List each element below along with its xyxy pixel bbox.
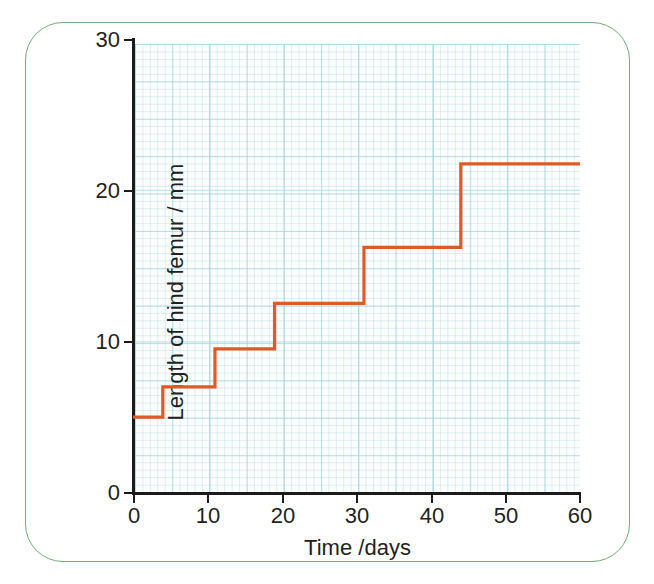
decade-gridlines xyxy=(135,44,580,493)
x-tick-10 xyxy=(207,494,209,503)
x-tick-60 xyxy=(579,494,581,503)
y-tick-label-10: 10 xyxy=(84,329,120,355)
x-tick-label-30: 30 xyxy=(345,503,369,529)
x-tick-label-60: 60 xyxy=(568,503,592,529)
y-tick-30 xyxy=(124,39,133,41)
y-axis-line xyxy=(132,38,135,495)
figure-root: 0 10 20 30 0 10 20 30 40 50 60 Length of… xyxy=(0,0,654,584)
plot-area xyxy=(135,44,580,493)
y-tick-label-30: 30 xyxy=(84,27,120,53)
x-tick-50 xyxy=(505,494,507,503)
x-tick-30 xyxy=(356,494,358,503)
y-tick-0 xyxy=(124,492,133,494)
x-axis-title: Time /days xyxy=(135,535,580,561)
x-tick-label-20: 20 xyxy=(271,503,295,529)
y-tick-10 xyxy=(124,341,133,343)
y-tick-label-0: 0 xyxy=(84,480,120,506)
x-tick-0 xyxy=(133,494,135,503)
x-tick-label-50: 50 xyxy=(494,503,518,529)
x-tick-20 xyxy=(282,494,284,503)
x-tick-40 xyxy=(431,494,433,503)
y-axis-title: Length of hind femur / mm xyxy=(163,164,189,421)
x-tick-label-0: 0 xyxy=(128,503,140,529)
x-tick-label-40: 40 xyxy=(420,503,444,529)
y-tick-20 xyxy=(124,190,133,192)
y-tick-label-20: 20 xyxy=(84,178,120,204)
x-tick-label-10: 10 xyxy=(196,503,220,529)
